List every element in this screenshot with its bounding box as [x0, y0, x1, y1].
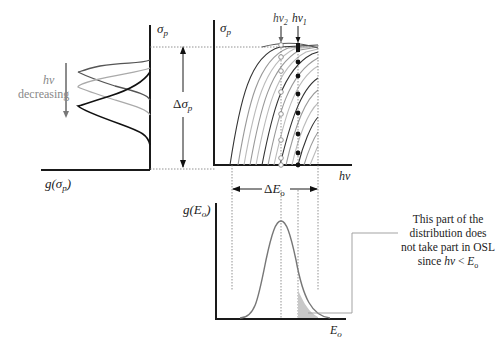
hv1-arrow-icon: [296, 37, 301, 43]
svg-text:g(Eo): g(Eo): [183, 202, 211, 219]
shaded-tail: [298, 290, 318, 318]
osl-diagram: hv decreasing σp g(σp) Δσp σp hv: [0, 0, 501, 347]
svg-text:Eo: Eo: [329, 323, 342, 339]
bottom-panel: g(Eo) Eo: [183, 190, 346, 339]
gaussian-eo-curve: [240, 221, 330, 318]
top-right-panel: σp hv: [213, 12, 352, 290]
left-sigma-label: σp: [157, 21, 168, 38]
callout-text: This part of the distribution does not t…: [388, 212, 501, 273]
hv2-label: hν2: [273, 12, 288, 27]
delta-e-annotation: ΔEo: [232, 181, 318, 198]
delta-sigma-annotation: Δσp: [173, 46, 193, 168]
hv-label: hv: [43, 73, 55, 87]
svg-text:Δσp: Δσp: [173, 96, 193, 113]
left-panel: hv decreasing σp g(σp): [18, 21, 168, 193]
callout-leader: [308, 233, 398, 313]
arrow-right-icon: [310, 186, 318, 192]
svg-text:σp: σp: [220, 20, 231, 37]
callout-line4: since hν < Eo: [388, 254, 501, 273]
hv-axis-label: hv: [339, 169, 351, 183]
arrow-head-icon: [63, 111, 69, 118]
g-sigma-label: g(σp): [45, 176, 71, 193]
arrow-left-icon: [232, 186, 240, 192]
gaussian-curve-light: [78, 68, 150, 115]
sigmoid-curves: [230, 43, 318, 165]
gaussian-curve-black: [78, 72, 150, 145]
hv1-label: hν1: [292, 12, 307, 27]
decreasing-label: decreasing: [18, 87, 69, 101]
hv2-arrow-icon: [279, 37, 284, 43]
arrow-down-icon: [180, 160, 186, 168]
svg-text:ΔEo: ΔEo: [264, 181, 285, 198]
